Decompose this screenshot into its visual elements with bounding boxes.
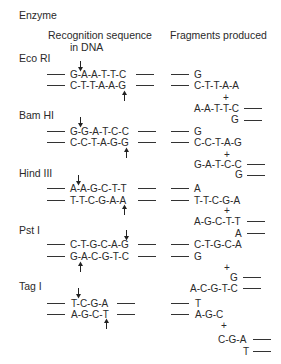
fragment-line	[171, 314, 189, 315]
ecori-top-strand: G-A-A-T-T-C	[70, 69, 126, 80]
fragment-line	[171, 142, 189, 143]
fragment-line	[243, 288, 261, 289]
enzyme-name-hindiii: Hind III	[19, 168, 52, 179]
bamhi-frag2-bottom: G	[235, 169, 243, 180]
dna-strand-line	[47, 188, 65, 189]
hindiii-frag1-top: A	[194, 183, 201, 194]
tagi-frag2-bottom: T	[243, 346, 249, 357]
fragment-line	[171, 74, 189, 75]
dna-strand-line	[47, 244, 65, 245]
bamhi-frag1-top: G	[194, 126, 202, 137]
hindiii-bottom-strand: T-T-C-G-A-A	[70, 195, 126, 206]
fragment-line	[171, 200, 189, 201]
ecori-frag1-top: G	[194, 69, 202, 80]
dna-strand-line	[47, 303, 65, 304]
psti-frag1-bottom: G	[194, 251, 202, 262]
fragment-line	[253, 351, 271, 352]
enzyme-name-psti: Pst I	[19, 225, 40, 236]
psti-top-strand: C-T-G-C-A-G	[70, 239, 129, 250]
psti-frag1-top: C-T-G-C-A	[194, 239, 242, 250]
psti-frag2-top: G	[230, 272, 238, 283]
hindiii-frag2-top: A-G-C-T-T	[194, 216, 241, 227]
enzyme-name-bamhi: Bam HI	[19, 110, 54, 121]
recognition-header-sub: in DNA	[70, 42, 103, 53]
ecori-frag2-bottom: G	[231, 114, 239, 125]
fragments-header: Fragments produced	[170, 30, 267, 41]
plus-sign: +	[224, 205, 230, 216]
fragment-line	[171, 303, 189, 304]
dna-strand-line	[138, 256, 156, 257]
enzyme-header: Enzyme	[19, 10, 57, 21]
dna-strand-line	[117, 314, 135, 315]
dna-strand-line	[47, 74, 65, 75]
tagi-frag1-top: T	[195, 298, 201, 309]
dna-strand-line	[47, 85, 65, 86]
ecori-frag1-bottom: C-T-T-A-A	[194, 80, 239, 91]
dna-strand-line	[138, 188, 156, 189]
fragment-line	[247, 164, 265, 165]
dna-strand-line	[138, 200, 156, 201]
fragment-line	[171, 244, 189, 245]
ecori-bottom-strand: C-T-T-A-A-G	[70, 80, 126, 91]
dna-strand-line	[138, 244, 156, 245]
fragment-line	[171, 131, 189, 132]
tagi-top-strand: T-C-G-A	[71, 298, 108, 309]
dna-strand-line	[138, 131, 156, 132]
hindiii-top-strand: A-A-G-C-T-T	[70, 183, 127, 194]
hindiii-frag1-bottom: T-T-C-G-A	[194, 195, 240, 206]
fragment-line	[253, 339, 271, 340]
cut-up-arrow-icon	[123, 147, 130, 158]
dna-strand-line	[47, 256, 65, 257]
ecori-frag2-top: A-A-T-T-C	[194, 103, 239, 114]
enzyme-name-tagi: Tag I	[19, 281, 42, 292]
plus-sign: +	[224, 262, 230, 273]
fragment-line	[243, 277, 261, 278]
fragment-line	[244, 120, 262, 121]
bamhi-bottom-strand: C-C-T-A-G-G	[70, 137, 129, 148]
dna-strand-line	[47, 131, 65, 132]
dna-strand-line	[47, 142, 65, 143]
fragment-line	[171, 188, 189, 189]
dna-strand-line	[117, 303, 135, 304]
dna-strand-line	[136, 74, 154, 75]
cut-up-arrow-icon	[121, 90, 128, 101]
cut-up-arrow-icon	[77, 261, 84, 272]
dna-strand-line	[47, 314, 65, 315]
dna-strand-line	[136, 85, 154, 86]
cut-up-arrow-icon	[103, 318, 110, 329]
dna-strand-line	[138, 142, 156, 143]
fragment-line	[171, 256, 189, 257]
bamhi-top-strand: G-G-A-T-C-C	[70, 126, 129, 137]
plus-sign: +	[223, 92, 229, 103]
enzyme-name-ecori: Eco RI	[19, 53, 51, 64]
hindiii-frag2-bottom: A	[235, 228, 242, 239]
fragment-line	[247, 221, 265, 222]
tagi-frag2-top: C-G-A	[218, 334, 246, 345]
tagi-frag1-bottom: A-G-C	[195, 309, 223, 320]
fragment-line	[247, 175, 265, 176]
fragment-line	[171, 85, 189, 86]
psti-frag2-bottom: A-C-G-T-C	[190, 283, 238, 294]
bamhi-frag1-bottom: C-C-T-A-G	[194, 137, 242, 148]
recognition-header: Recognition sequence	[48, 30, 152, 41]
cut-up-arrow-icon	[121, 204, 128, 215]
plus-sign: +	[221, 320, 227, 331]
fragment-line	[244, 108, 262, 109]
fragment-line	[247, 233, 265, 234]
dna-strand-line	[47, 200, 65, 201]
